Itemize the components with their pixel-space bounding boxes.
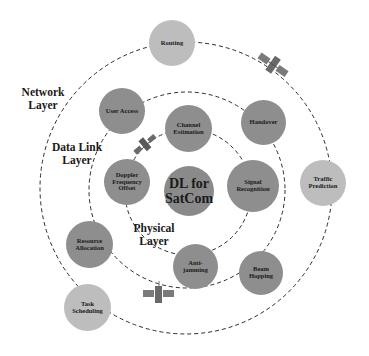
satellite-icon bbox=[131, 131, 161, 157]
satellite-icon bbox=[141, 281, 177, 305]
node-traffic-prediction: Traffic Prediction bbox=[300, 160, 346, 206]
satellite-icon bbox=[254, 50, 294, 82]
datalink-layer-label: Data Link Layer bbox=[50, 141, 104, 167]
center-node-dl-for-satcom: DL for SatCom bbox=[164, 166, 214, 216]
node-channel-estimation: Channel Estimation bbox=[165, 105, 212, 152]
node-task-scheduling: Task Scheduling bbox=[64, 284, 111, 331]
node-beam-hopping: Beam Hopping bbox=[239, 251, 283, 295]
network-layer-label: Network Layer bbox=[20, 86, 66, 112]
node-resource-allocation: Resource Allocation bbox=[66, 221, 113, 268]
node-routing: Routing bbox=[149, 20, 195, 66]
node-doppler-frequency-offset: Doppler Frequency Offset bbox=[104, 159, 150, 205]
node-anti-jamming: Anti- jamming bbox=[173, 244, 218, 289]
node-handover: Handover bbox=[241, 100, 286, 145]
node-signal-recognition: Signal Recognition bbox=[227, 160, 279, 212]
node-user-access: User Access bbox=[99, 88, 145, 134]
physical-layer-label: Physical Layer bbox=[130, 222, 178, 248]
